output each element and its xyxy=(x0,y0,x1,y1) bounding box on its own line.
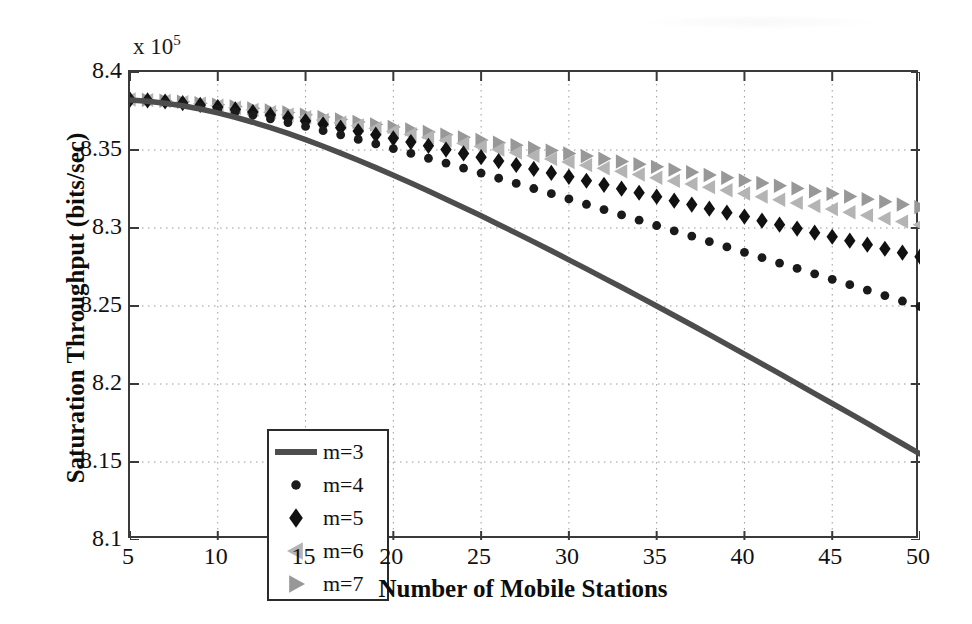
data-marker xyxy=(477,169,486,178)
data-marker xyxy=(719,183,732,197)
legend-item-label: m=4 xyxy=(323,474,364,496)
data-marker xyxy=(705,237,714,246)
data-marker xyxy=(686,197,697,213)
data-marker xyxy=(528,161,539,177)
data-marker xyxy=(914,249,920,265)
legend-marker-icon xyxy=(269,435,323,468)
data-marker xyxy=(827,229,838,245)
data-marker xyxy=(790,196,803,210)
data-marker xyxy=(529,184,538,193)
data-marker xyxy=(758,253,767,262)
data-marker xyxy=(512,179,521,188)
data-marker xyxy=(547,189,556,198)
x-tick-label: 30 xyxy=(555,543,579,570)
data-marker xyxy=(774,179,787,193)
data-marker xyxy=(564,195,573,204)
data-marker xyxy=(916,302,920,311)
data-marker xyxy=(633,185,644,201)
x-tick-label: 45 xyxy=(818,543,842,570)
data-marker xyxy=(702,180,715,194)
x-tick-label: 25 xyxy=(467,543,491,570)
data-marker xyxy=(301,122,310,131)
data-marker xyxy=(863,286,872,295)
x-tick-label: 35 xyxy=(643,543,667,570)
data-marker xyxy=(791,221,802,237)
data-marker xyxy=(898,297,907,306)
y-axis-exponent-power: 5 xyxy=(173,32,181,48)
x-tick-label: 40 xyxy=(730,543,754,570)
data-marker xyxy=(737,186,750,200)
data-marker xyxy=(844,233,855,249)
legend-item-m5[interactable]: m=5 xyxy=(269,501,387,534)
data-marker xyxy=(828,275,837,284)
data-marker xyxy=(914,200,920,214)
x-tick-label: 10 xyxy=(204,543,228,570)
data-marker xyxy=(721,205,732,221)
data-marker xyxy=(755,189,768,203)
data-marker xyxy=(756,176,769,190)
data-marker xyxy=(793,264,802,273)
series-m3 xyxy=(130,100,920,454)
data-marker xyxy=(494,174,503,183)
y-axis-tick-labels: 8.18.158.28.258.38.358.4 xyxy=(0,0,122,624)
data-marker xyxy=(687,232,696,241)
data-marker xyxy=(266,114,275,123)
data-marker xyxy=(807,199,820,213)
data-marker xyxy=(913,218,921,232)
x-axis-title: Number of Mobile Stations xyxy=(128,575,918,603)
data-marker xyxy=(424,154,433,163)
data-marker xyxy=(895,214,908,228)
data-marker xyxy=(879,241,890,257)
data-marker xyxy=(809,225,820,241)
y-axis-exponent-base: x 10 xyxy=(133,34,173,59)
data-marker xyxy=(772,193,785,207)
legend-item-label: m=5 xyxy=(323,507,364,529)
y-axis-title: Saturation Throughput (bits/sec) xyxy=(62,28,90,588)
data-marker xyxy=(862,192,875,206)
data-marker xyxy=(546,165,557,181)
data-marker xyxy=(774,217,785,233)
data-marker xyxy=(635,216,644,225)
data-marker xyxy=(563,169,574,185)
data-marker xyxy=(582,200,591,209)
legend-marker-icon xyxy=(269,468,323,501)
grid-lines xyxy=(130,72,920,540)
x-axis-tick-labels: 5101520253035404550 xyxy=(128,543,918,577)
data-marker xyxy=(844,189,857,203)
axis-tick-marks xyxy=(130,72,920,540)
data-marker xyxy=(670,226,679,235)
data-marker xyxy=(845,280,854,289)
data-marker xyxy=(651,189,662,205)
data-marker xyxy=(704,201,715,217)
data-marker xyxy=(669,193,680,209)
series-line xyxy=(130,100,920,454)
data-marker xyxy=(775,259,784,268)
x-tick-label: 50 xyxy=(906,543,930,570)
data-series-layer xyxy=(130,92,920,454)
legend-item-m3[interactable]: m=3 xyxy=(269,435,387,468)
data-marker xyxy=(842,205,855,219)
saturation-throughput-figure: x 105 8.18.158.28.258.38.358.4 m=3m=4m=5… xyxy=(0,0,972,624)
data-marker xyxy=(877,211,890,225)
data-marker xyxy=(248,111,257,120)
data-marker xyxy=(721,171,734,185)
data-marker xyxy=(442,159,451,168)
data-marker xyxy=(371,139,380,148)
data-marker xyxy=(354,135,363,144)
data-marker xyxy=(284,118,293,127)
data-marker xyxy=(319,126,328,135)
data-marker xyxy=(389,144,398,153)
data-marker xyxy=(704,168,717,182)
legend-item-m4[interactable]: m=4 xyxy=(269,468,387,501)
x-tick-label: 5 xyxy=(122,543,134,570)
data-marker xyxy=(739,209,750,225)
data-marker xyxy=(600,205,609,214)
data-marker xyxy=(581,173,592,189)
data-marker xyxy=(880,291,889,300)
data-marker xyxy=(598,177,609,193)
data-marker xyxy=(511,157,522,173)
data-marker xyxy=(336,130,345,139)
data-marker xyxy=(756,213,767,229)
x-tick-label: 20 xyxy=(379,543,403,570)
data-marker xyxy=(652,221,661,230)
